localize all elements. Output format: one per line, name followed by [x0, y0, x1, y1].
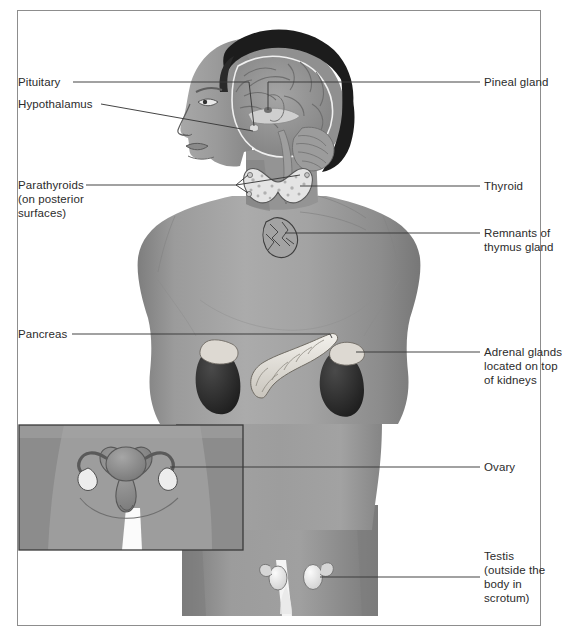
- adrenal-gland-right: [330, 342, 365, 365]
- label-parathyroids-line3: surfaces): [18, 206, 66, 220]
- epididymis-right: [320, 563, 333, 577]
- label-testis-line4: scrotum): [484, 591, 530, 605]
- pupil: [203, 100, 207, 104]
- label-thyroid: Thyroid: [484, 179, 523, 193]
- label-adrenal-line2: located on top: [484, 359, 558, 373]
- label-thymus-line2: thymus gland: [484, 240, 554, 254]
- label-adrenal-line3: of kidneys: [484, 373, 537, 387]
- label-adrenal-line1: Adrenal glands: [484, 345, 562, 359]
- label-pineal-gland: Pineal gland: [484, 75, 549, 89]
- label-ovary: Ovary: [484, 460, 515, 474]
- female-pelvis-inset: [19, 425, 243, 550]
- label-testis-line3: body in: [484, 577, 522, 591]
- label-hypothalamus: Hypothalamus: [18, 97, 93, 111]
- label-parathyroids-line2: (on posterior: [18, 192, 84, 206]
- label-testis-line1: Testis: [484, 549, 514, 563]
- label-thymus-line1: Remnants of: [484, 226, 550, 240]
- label-parathyroids-line1: Parathyroids: [18, 178, 84, 192]
- label-pituitary: Pituitary: [18, 75, 60, 89]
- uterus-body: [106, 447, 146, 481]
- label-pancreas: Pancreas: [18, 327, 67, 341]
- inset-waist-shade: [19, 425, 243, 438]
- label-testis-line2: (outside the: [484, 563, 545, 577]
